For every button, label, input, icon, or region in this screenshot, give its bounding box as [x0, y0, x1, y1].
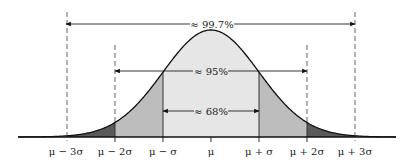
tick-mu-plus-sigma: μ + σ — [245, 146, 273, 157]
tick-mu-minus-3sigma: μ − 3σ — [49, 146, 84, 157]
label-68: ≈ 68% — [194, 106, 228, 117]
tick-mu-minus-sigma: μ − σ — [149, 146, 177, 157]
arrow-95: ≈ 95% — [115, 66, 307, 77]
arrow-99-7: ≈ 99.7% — [66, 19, 355, 30]
region-within-1-sigma — [163, 30, 259, 137]
tick-mu: μ — [208, 146, 215, 157]
tick-mu-plus-2sigma: μ + 2σ — [290, 146, 325, 157]
tick-mu-plus-3sigma: μ + 3σ — [338, 146, 373, 157]
axis-labels: μ − 3σ μ − 2σ μ − σ μ μ + σ μ + 2σ μ + 3… — [49, 146, 373, 157]
tick-mu-minus-2sigma: μ − 2σ — [98, 146, 133, 157]
label-99-7: ≈ 99.7% — [190, 19, 233, 30]
normal-distribution-diagram: ≈ 99.7% ≈ 95% ≈ 68% μ − 3σ μ − 2σ μ − σ … — [0, 0, 414, 164]
label-95: ≈ 95% — [194, 66, 228, 77]
